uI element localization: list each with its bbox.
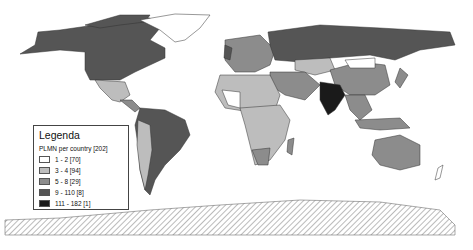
region-southeast-asia	[345, 95, 372, 120]
region-australia	[372, 135, 420, 170]
legend-swatch	[39, 167, 50, 174]
legend-swatch	[39, 200, 50, 207]
legend-label: 1 - 2 [70]	[55, 156, 81, 163]
legend-item: 3 - 4 [94]	[39, 165, 123, 175]
region-india	[320, 82, 345, 115]
region-madagascar	[287, 138, 294, 155]
legend-label: 5 - 8 [29]	[55, 178, 81, 185]
legend-item: 5 - 8 [29]	[39, 176, 123, 186]
legend-item: 111 - 182 [1]	[39, 198, 123, 208]
legend-swatch	[39, 189, 50, 196]
legend-label: 111 - 182 [1]	[55, 200, 91, 207]
region-central-america	[120, 100, 140, 112]
region-indonesia	[355, 118, 410, 130]
legend-swatch	[39, 178, 50, 185]
legend-title: Legenda	[39, 129, 123, 142]
region-north-america	[20, 18, 165, 80]
region-new-zealand	[435, 165, 443, 180]
map-legend: Legenda PLMN per country [202] 1 - 2 [70…	[33, 125, 129, 210]
region-russia	[268, 25, 455, 62]
legend-item: 9 - 110 [8]	[39, 187, 123, 197]
region-europe	[225, 35, 275, 72]
region-mongolia	[345, 58, 375, 68]
legend-swatch	[39, 156, 50, 163]
legend-item: 1 - 2 [70]	[39, 154, 123, 164]
region-japan	[395, 68, 408, 88]
legend-label: 9 - 110 [8]	[55, 189, 84, 196]
region-mexico	[95, 80, 130, 102]
legend-subtitle: PLMN per country [202]	[39, 144, 123, 153]
legend-label: 3 - 4 [94]	[55, 167, 81, 174]
